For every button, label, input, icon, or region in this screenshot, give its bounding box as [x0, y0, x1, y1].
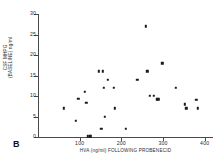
data-point	[100, 128, 102, 130]
x-axis-title: HVA (ng/ml) FOLLOWING PROBENECID	[38, 148, 213, 153]
y-axis-line	[38, 14, 39, 137]
data-point	[196, 107, 198, 109]
data-point	[153, 95, 155, 97]
data-point	[102, 70, 104, 72]
data-point	[74, 119, 76, 121]
data-point	[185, 107, 187, 109]
y-tick-label: 5	[33, 114, 36, 119]
y-tick-label: 30	[30, 11, 36, 16]
data-point	[161, 62, 163, 64]
data-point	[195, 99, 197, 101]
scatter-plot-figure: 051015202530 100200300400 HVA (ng/ml) FO…	[0, 0, 223, 162]
y-axis-title-line2: (BASELINE) ng/ml	[8, 25, 13, 89]
x-tick-label: 200	[117, 141, 126, 146]
x-tick-label: 100	[75, 141, 84, 146]
data-point	[174, 87, 176, 89]
y-tick-label: 0	[33, 134, 36, 139]
data-point	[157, 98, 159, 100]
x-axis-line	[38, 137, 213, 138]
data-point	[107, 78, 109, 80]
data-point	[148, 95, 150, 97]
data-point	[113, 107, 115, 109]
data-point	[113, 87, 115, 89]
y-tick-label: 15	[30, 73, 36, 78]
data-point	[136, 78, 138, 80]
y-axis-title-line1: CSF MHPG	[3, 44, 8, 70]
data-point	[144, 25, 146, 27]
data-point	[77, 98, 79, 100]
data-point	[104, 115, 106, 117]
y-tick-label: 20	[30, 52, 36, 57]
data-point	[103, 87, 105, 89]
y-tick-label: 25	[30, 32, 36, 37]
y-axis-title: CSF MHPG (BASELINE) ng/ml	[3, 25, 14, 89]
x-tick-label: 300	[158, 141, 167, 146]
data-point	[146, 70, 148, 72]
panel-label: B	[13, 140, 20, 149]
data-point	[84, 91, 86, 93]
y-tick-label: 10	[30, 93, 36, 98]
data-point	[183, 103, 185, 105]
data-point	[85, 102, 87, 104]
plot-area: 051015202530 100200300400	[38, 14, 213, 137]
data-point	[63, 107, 65, 109]
x-tick-label: 400	[200, 141, 209, 146]
data-point	[124, 128, 126, 130]
data-point	[98, 70, 100, 72]
